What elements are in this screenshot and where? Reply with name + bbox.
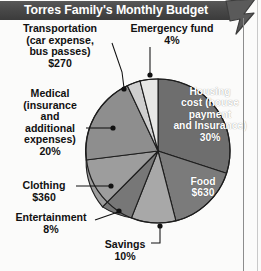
pie-label-savings: Savings 10% xyxy=(80,239,170,262)
leader-dot-savings xyxy=(157,223,162,228)
pie-label-emergency-fund: Emergency fund 4% xyxy=(120,23,224,46)
page-edge-line-outer xyxy=(257,0,258,271)
page-edge-line xyxy=(243,18,244,271)
pie-label-clothing: Clothing $360 xyxy=(4,180,84,203)
pie-label-transportation: Transportation (car expense, bus passes)… xyxy=(2,23,118,69)
leader-dot-entertainment xyxy=(116,208,121,213)
leader-dot-clothing xyxy=(108,183,113,188)
leader-dot-emergency-fund xyxy=(147,72,152,77)
pie-label-medical: Medical (insurance and additional expens… xyxy=(2,88,98,158)
leader-dot-medical xyxy=(110,125,115,130)
leader-dot-transportation xyxy=(121,86,126,91)
pie-label-entertainment: Entertainment 8% xyxy=(0,212,102,235)
pie-label-food: Food $630 xyxy=(176,176,230,199)
pie-chart-figure: Torres Family's Monthly Budget xyxy=(0,0,261,271)
